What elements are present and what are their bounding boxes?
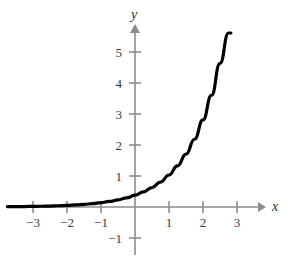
- plot-canvas: [0, 0, 295, 268]
- y-tick-label-3: 3: [108, 108, 122, 121]
- y-tick-label-5: 5: [108, 46, 122, 59]
- y-tick-label-4: 4: [108, 77, 122, 90]
- x-axis-label: x: [272, 200, 278, 214]
- y-tick-label-2: 2: [108, 139, 122, 152]
- x-tick-label-3: 3: [234, 216, 241, 229]
- y-tick-label--1: −1: [100, 232, 122, 245]
- y-axis-label: y: [131, 8, 137, 22]
- x-axis-arrowhead: [258, 202, 266, 212]
- x-tick-label-2: 2: [200, 216, 207, 229]
- x-tick-label--2: −2: [60, 216, 74, 229]
- y-tick-label-1: 1: [108, 170, 122, 183]
- x-tick-label--1: −1: [94, 216, 108, 229]
- x-tick-label--3: −3: [26, 216, 40, 229]
- exponential-function-graph: −3 −2 −1 1 2 3 5 4 3 2 1 −1 y x: [0, 0, 295, 268]
- x-tick-label-1: 1: [166, 216, 173, 229]
- y-axis-arrowhead: [130, 24, 140, 33]
